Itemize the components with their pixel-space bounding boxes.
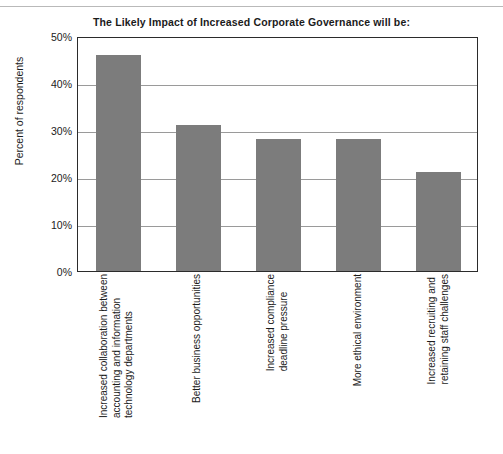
- chart-page: The Likely Impact of Increased Corporate…: [0, 0, 503, 454]
- bar: [96, 55, 141, 271]
- x-axis-label-line: retaining staff challenges: [438, 274, 451, 384]
- y-tick-label: 40%: [26, 78, 72, 90]
- bar: [336, 139, 381, 271]
- bar: [416, 172, 461, 271]
- x-label-slot: Increased recruiting andretaining staff …: [398, 274, 478, 452]
- top-divider: [0, 6, 503, 7]
- x-axis-label: Increased compliancedeadline pressure: [265, 274, 290, 371]
- x-axis-label-line: deadline pressure: [277, 274, 290, 371]
- y-axis-tick-labels: 50%40%30%20%10%0%: [26, 37, 72, 272]
- x-axis-label-line: accounting and information: [111, 274, 124, 418]
- x-axis-label: Increased recruiting andretaining staff …: [426, 274, 451, 384]
- x-label-slot: Increased collaboration betweenaccountin…: [77, 274, 157, 452]
- x-axis-label-line: Increased recruiting and: [426, 274, 439, 384]
- chart-title: The Likely Impact of Increased Corporate…: [0, 16, 503, 28]
- x-label-slot: Increased compliancedeadline pressure: [237, 274, 317, 452]
- x-axis-label-line: Increased collaboration between: [98, 274, 111, 418]
- x-axis-category-labels: Increased collaboration betweenaccountin…: [77, 274, 478, 452]
- x-axis-label: Increased collaboration betweenaccountin…: [98, 274, 136, 418]
- x-axis-label-line: technology departments: [123, 274, 136, 418]
- x-label-slot: More ethical environment: [318, 274, 398, 452]
- plot-area: [77, 37, 478, 272]
- x-axis-label-line: More ethical environment: [352, 274, 365, 386]
- x-label-slot: Better business opportunities: [157, 274, 237, 452]
- bar: [176, 125, 221, 271]
- x-axis-label-line: Better business opportunities: [191, 274, 204, 403]
- y-tick-label: 0%: [26, 266, 72, 278]
- y-tick-label: 10%: [26, 219, 72, 231]
- y-tick-label: 20%: [26, 172, 72, 184]
- y-tick-label: 50%: [26, 31, 72, 43]
- x-axis-label-line: Increased compliance: [265, 274, 278, 371]
- y-axis-title: Percent of respondents: [13, 31, 25, 191]
- bar: [256, 139, 301, 271]
- x-axis-label: Better business opportunities: [191, 274, 204, 403]
- x-axis-label: More ethical environment: [352, 274, 365, 386]
- bar-series: [78, 38, 477, 271]
- y-tick-label: 30%: [26, 125, 72, 137]
